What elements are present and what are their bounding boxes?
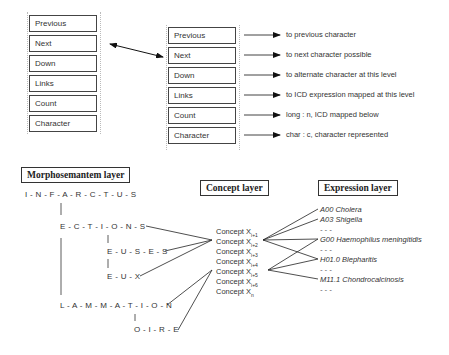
- diagram-connectors: [0, 0, 449, 355]
